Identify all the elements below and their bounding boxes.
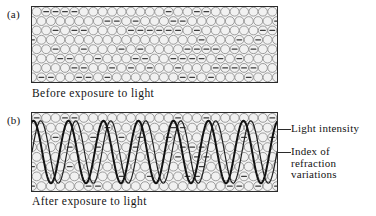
figure-root: (a) Before exposure to light (b) After e… [0,0,376,216]
caption-before-exposure: Before exposure to light [32,87,154,100]
grain-pattern-after [32,113,277,191]
material-box-before-exposure [31,6,278,83]
annotation-index-line-3: variations [291,169,375,181]
leader-line-light-intensity [278,129,291,130]
annotation-index-of-refraction: Index of refraction variations [291,146,375,181]
annotation-index-line-1: Index of [291,146,375,158]
material-box-after-exposure [31,112,278,192]
panel-label-a: (a) [7,8,20,20]
annotation-light-intensity: Light intensity [291,123,359,135]
caption-after-exposure: After exposure to light [32,195,147,208]
leader-line-index-of-refraction [278,152,291,153]
grain-pattern-before [32,7,277,82]
panel-label-b: (b) [7,114,20,126]
